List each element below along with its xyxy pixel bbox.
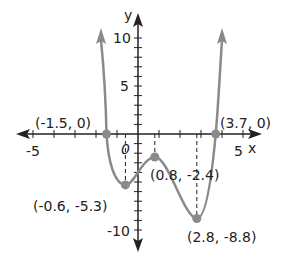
y-axis-label: y (124, 7, 132, 23)
polynomial-curve (101, 40, 222, 219)
tick-label-y-neg10: -10 (107, 223, 130, 239)
graph: -5 0 5 10 5 -10 x y (-1.5, 0) (3.7, 0) (… (0, 0, 301, 265)
point-local-min-left (121, 180, 130, 189)
tick-label-origin: 0 (121, 141, 130, 157)
x-axis-label: x (248, 140, 256, 156)
point-x-intercept-right (211, 130, 220, 139)
label-x-intercept-right: (3.7, 0) (220, 115, 271, 131)
tick-label-y-10: 10 (113, 30, 131, 46)
label-local-min-left: (-0.6, -5.3) (33, 198, 107, 214)
label-local-max: (0.8, -2.4) (150, 167, 219, 183)
point-local-min-right (192, 214, 201, 223)
label-local-min-right: (2.8, -8.8) (187, 229, 256, 245)
label-x-intercept-left: (-1.5, 0) (35, 115, 91, 131)
tick-label-y-5: 5 (120, 78, 129, 94)
tick-label-x-neg5: -5 (26, 143, 40, 159)
point-local-max (150, 153, 159, 162)
point-x-intercept-left (102, 130, 111, 139)
tick-label-x-5: 5 (234, 143, 243, 159)
y-axis (133, 13, 143, 252)
